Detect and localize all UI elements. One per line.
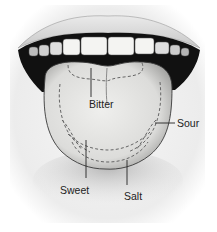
sweet-label: Sweet — [60, 184, 89, 196]
sour-label: Sour — [177, 117, 200, 129]
tongue — [44, 62, 172, 169]
salt-label: Salt — [124, 190, 142, 202]
bitter-label: Bitter — [89, 98, 114, 110]
tongue-taste-diagram: Bitter Sour Sweet Salt — [0, 0, 217, 232]
